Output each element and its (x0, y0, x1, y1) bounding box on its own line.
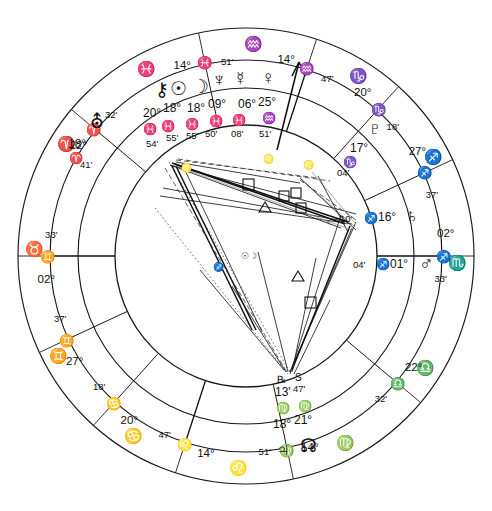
venus-degree: 25° (258, 95, 276, 109)
zodiac-glyph-cancer: ♋ (124, 427, 143, 445)
sun-glyph: ☉ (170, 78, 187, 99)
cusp-minute-house-2: 37' (54, 313, 67, 324)
cusp-degree-house-11: 14° (174, 59, 191, 71)
chiron-sign-glyph: ♓ (143, 122, 157, 136)
cusp-degree-house-2: 27° (66, 355, 83, 367)
zodiac-glyph-virgo: ♍ (336, 434, 355, 452)
pluto-glyph: ♇ (368, 118, 382, 139)
saturn-minute: 10' (340, 213, 353, 224)
inner-glyph-marker-3: ♃ (324, 217, 331, 227)
inner-glyph-sagittarius: ♐ (213, 261, 224, 272)
cusp-sign-glyph-house-4: ♌ (177, 437, 193, 452)
cusp-sign-glyph-house-6: ♎ (390, 376, 406, 391)
cusp-minute-house-8: 37' (426, 189, 439, 200)
chiron-minute: 54' (146, 138, 159, 149)
cusp-sign-glyph-house-11: ♓ (197, 55, 213, 70)
cusp-minute-house-10: 47' (321, 73, 334, 84)
astrology-chart-wheel: ♐ ☉☽ ♌ ♌ ♃ ♌ ♓♈♉♊♋♌♍♎♏♐♑♒ 02°♊33'27°♊37'… (0, 0, 492, 511)
mercury-sign-glyph: ♓ (232, 113, 246, 127)
north-node-glyph: ☊ (300, 435, 317, 456)
saturn-sign-glyph: ♐ (364, 211, 378, 225)
jupiter-sign-glyph: ♍ (276, 401, 290, 415)
cusp-minute-house-12: 32' (105, 109, 118, 120)
neptune-degree: 09° (208, 97, 226, 111)
jupiter-glyph: ♃ (276, 439, 290, 460)
neptune-glyph: ♆ (212, 69, 226, 90)
cusp-sign-glyph-house-1: ♊ (40, 249, 56, 264)
mars-sign-glyph: ♐ (376, 257, 390, 271)
node-station-mark: S (295, 372, 302, 383)
mars-minute: 04' (353, 259, 366, 270)
cusp-minute-house-4: 47' (159, 429, 172, 440)
trine-aspect-icon (292, 271, 304, 281)
planet-uranus-group: ⛢ 18° ♈ 41' (68, 111, 104, 170)
jupiter-degree: 13' (275, 385, 291, 399)
planet-saturn-group: ♄ 16° ♐ 10' (340, 205, 419, 226)
aspect-lines-group (155, 159, 356, 374)
saturn-degree: 16° (378, 210, 396, 224)
mercury-minute: 08' (231, 128, 244, 139)
cusp-minute-house-5: 51' (259, 446, 272, 457)
node-minute: 47' (293, 383, 306, 394)
house-cusp-spoke-4 (185, 381, 205, 443)
node-sign-glyph: ♍ (298, 399, 312, 413)
sun-sign-glyph: ♓ (161, 119, 175, 133)
zodiac-glyph-sagittarius: ♐ (424, 148, 443, 166)
venus-sign-glyph: ♒ (262, 111, 276, 125)
pluto-degree: 17° (350, 141, 368, 155)
mercury-degree: 06° (238, 97, 256, 111)
inner-glyph-marker-4: ♌ (303, 159, 314, 170)
zodiac-glyph-leo: ♌ (229, 459, 248, 477)
node-degree-value: 21° (294, 413, 312, 427)
cusp-degree-house-8: 27° (409, 145, 426, 157)
cusp-sign-glyph-house-7: ♐ (436, 249, 452, 264)
moon-degree: 18° (187, 101, 205, 115)
zodiac-glyph-pisces: ♓ (137, 60, 156, 78)
cusp-sign-glyph-house-10: ♒ (299, 61, 315, 76)
moon-glyph: ☽ (192, 76, 209, 97)
uranus-degree: 18° (68, 137, 86, 151)
mercury-glyph: ☿ (233, 68, 247, 89)
cusp-sign-glyph-house-9: ♑ (371, 102, 387, 117)
moon-minute: 55' (186, 130, 199, 141)
house-cusp-spoke-6 (346, 340, 396, 382)
planet-mars-group: ♂ 01° ♐ 04' (353, 253, 433, 274)
cusp-degree-house-4: 14° (197, 447, 214, 459)
square-aspect-icon (291, 188, 301, 198)
inner-glyph-marker-2: ♌ (263, 153, 274, 164)
chart-wheel-svg: ♐ ☉☽ ♌ ♌ ♃ ♌ ♓♈♉♊♋♌♍♎♏♐♑♒ 02°♊33'27°♊37'… (0, 0, 492, 511)
cusp-sign-glyph-house-8: ♐ (417, 165, 433, 180)
neptune-sign-glyph: ♓ (209, 114, 223, 128)
cusp-minute-house-6: 32' (375, 393, 388, 404)
house-cusp-spoke-12 (96, 130, 146, 172)
cusp-degree-house-9: 20° (354, 86, 371, 98)
cusp-minute-house-3: 18' (93, 381, 106, 392)
cusp-minute-house-1: 33' (45, 229, 58, 240)
jupiter-degree-value: 18° (273, 417, 291, 431)
cusp-minute-house-7: 33' (435, 273, 448, 284)
cusp-degree-house-1: 02° (38, 273, 55, 285)
sun-degree: 18° (163, 101, 181, 115)
zodiac-glyph-aquarius: ♒ (244, 35, 263, 53)
zodiac-glyph-capricorn: ♑ (349, 67, 368, 85)
planet-cluster-pisces: ⚷ ☉ ☽ ♆ ☿ ♀ 20° 18° 18° 09° 06° 25° ♓ ♓ … (143, 67, 276, 149)
neptune-minute: 50' (205, 128, 218, 139)
moon-sign-glyph: ♓ (185, 117, 199, 131)
cusp-degree-house-7: 02° (437, 227, 454, 239)
inner-glyph-marker: ♌ (181, 162, 192, 173)
pluto-minute: 04' (337, 167, 350, 178)
saturn-glyph: ♄ (405, 205, 419, 226)
cusp-degree-house-10: 14° (277, 53, 294, 65)
jupiter-retrograde-mark: ℞ (277, 374, 286, 385)
inner-glyph-conjunction: ☉☽ (241, 251, 257, 261)
uranus-minute: 41' (80, 159, 93, 170)
cusp-minute-house-9: 18' (387, 121, 400, 132)
mars-degree: 01° (390, 257, 408, 271)
chiron-degree: 20° (143, 106, 161, 120)
mars-glyph: ♂ (419, 253, 433, 274)
cusp-sign-glyph-house-2: ♊ (59, 333, 75, 348)
venus-minute: 51' (259, 128, 272, 139)
cusp-sign-glyph-house-3: ♋ (106, 396, 122, 411)
sun-minute: 55' (166, 132, 179, 143)
cusp-degree-house-3: 20° (121, 414, 138, 426)
